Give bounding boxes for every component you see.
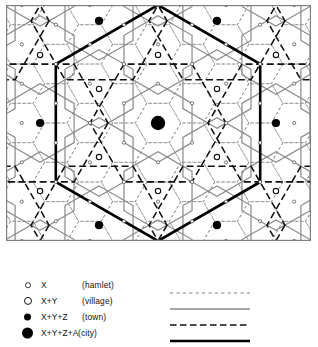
hamlet-dot [259,180,262,183]
hamlet-dot [293,43,296,46]
hamlet-dot [88,121,91,124]
hamlet-dot [88,200,91,203]
village-dot [96,86,101,91]
hamlet-dot [190,220,193,223]
hamlet-dot [293,200,296,203]
legend-product-label: X+Y+Z [41,312,68,322]
hamlet-dot [122,23,125,26]
hamlet-dot [225,200,228,203]
legend-row-town: X+Y+Z(town) [0,309,318,325]
legend-symbol-filled-circle-icon [24,313,31,320]
hamlet-dot [54,220,57,223]
legend-rank-label: (village) [82,296,113,306]
map-panel [6,5,311,241]
legend-row-hamlet: X(hamlet) [0,277,318,293]
central-place-map [6,5,311,241]
legend-row-city: X+Y+Z+A(city) [0,325,318,341]
hamlet-dot [293,121,296,124]
hamlet-dot [122,102,125,105]
hamlet-dot [54,180,57,183]
legend-boundary-sample-solid-thin [170,298,250,304]
legend-boundary-sample-coarse-dashed [170,314,250,320]
hamlet-dot [225,82,228,85]
hamlet-dot [20,200,23,203]
town-dot [213,221,221,229]
hamlet-dot [156,200,159,203]
hamlet-dot [122,220,125,223]
town-dot [213,17,221,25]
hamlet-dot [20,161,23,164]
village-dot [155,188,160,193]
village-dot [37,52,42,57]
hamlet-dot [190,180,193,183]
legend-product-label: X+Y+Z+A [41,328,79,338]
legend-boundary-sample-solid-thick [170,330,250,336]
legend-boundary-sample-fine-dashed [170,282,250,288]
legend-symbol-open-circle-icon [24,297,32,305]
hamlet-dot [88,161,91,164]
legend-symbol-small-open-circle-icon [25,282,31,288]
hamlet-dot [88,43,91,46]
village-dot [37,188,42,193]
legend-product-label: X [41,280,47,290]
hamlet-dot [54,102,57,105]
hamlet-dot [259,23,262,26]
hamlet-dot [190,141,193,144]
hamlet-dot [156,161,159,164]
town-dot [95,17,103,25]
legend-row-village: X+Y(village) [0,293,318,309]
hamlet-dot [259,62,262,65]
hamlet-dot [122,62,125,65]
city-dot [151,116,165,130]
hamlet-dot [225,43,228,46]
hamlet-dot [259,141,262,144]
village-dot [155,52,160,57]
hamlet-dot [20,43,23,46]
village-dot [96,154,101,159]
hamlet-dot [190,102,193,105]
legend-rank-label: (hamlet) [82,280,114,290]
hamlet-dot [20,82,23,85]
hamlet-dot [225,161,228,164]
hamlet-dot [54,62,57,65]
hamlet-dot [293,161,296,164]
legend-rank-label: (city) [78,328,97,338]
legend-rank-label: (town) [82,312,106,322]
legend-symbol-large-filled-circle-icon [22,328,33,339]
hamlet-dot [54,23,57,26]
village-dot [273,188,278,193]
hamlet-dot [156,43,159,46]
town-dot [36,119,44,127]
hamlet-dot [225,121,228,124]
village-dot [273,52,278,57]
hamlet-dot [259,220,262,223]
town-dot [95,221,103,229]
town-dot [272,119,280,127]
hamlet-dot [20,121,23,124]
hamlet-dot [88,82,91,85]
hamlet-dot [156,82,159,85]
hamlet-dot [122,141,125,144]
hamlet-dot [122,180,125,183]
hamlet-dot [293,82,296,85]
hamlet-dot [54,141,57,144]
legend-product-label: X+Y [41,296,58,306]
map-legend: central place selling product trade area… [0,244,318,347]
village-dot [214,86,219,91]
hamlet-dot [259,102,262,105]
hamlet-dot [190,62,193,65]
hamlet-dot [190,23,193,26]
village-dot [214,154,219,159]
